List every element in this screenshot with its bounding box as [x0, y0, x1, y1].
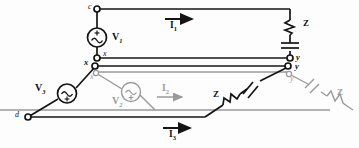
front-branch-z-seg1 [205, 105, 223, 117]
front-capacitor-plates-right [281, 43, 299, 48]
back-branch-z-seg4 [321, 92, 327, 96]
source-v3-symbol [58, 84, 77, 103]
node-label-x-mid: x [84, 58, 88, 67]
front-branch-v3-lower [28, 99, 58, 117]
node-y-mid-dot [285, 63, 291, 69]
node-x-mid-dot [92, 63, 98, 69]
node-label-x-upper: x [103, 50, 107, 58]
node-d-dot [25, 114, 31, 120]
back-branch-z-seg6 [347, 106, 353, 110]
source-v1-symbol [88, 28, 107, 47]
source-v3-label: V3 [35, 83, 45, 96]
current-i2-label: I2 [162, 84, 169, 95]
node-label-d: d [15, 111, 19, 119]
back-branch-v2-right [140, 95, 155, 110]
source-v1-label: V1 [112, 32, 122, 45]
current-i3-label: I3 [169, 130, 176, 141]
node-y-upper-dot [287, 55, 293, 61]
node-x-upper-dot [94, 55, 100, 61]
node-label-c: c [88, 3, 92, 11]
source-v2-label: V2 [112, 96, 122, 109]
impedance-z-back-label: Z [337, 88, 343, 97]
back-branch-v2-left [96, 73, 122, 89]
impedance-z-middle-label: Z [213, 90, 219, 99]
node-label-y-mid: y [295, 62, 299, 71]
source-v2-symbol [122, 83, 141, 102]
current-i1-label: I1 [170, 21, 177, 32]
front-capacitor-plates-middle [243, 82, 258, 98]
circuit-diagram-figure: c x x x y y y d V1 V2 V3 Z Z Z I1 I2 I3 [0, 0, 359, 148]
front-resistor-zigzag-right [285, 20, 294, 35]
node-x-back-dot [93, 70, 98, 75]
back-capacitor-plates [305, 79, 319, 93]
impedance-z-right-label: Z [303, 19, 309, 28]
node-label-y-back: y [290, 75, 294, 83]
node-label-x-back: x [90, 73, 94, 81]
node-c-dot [94, 6, 100, 12]
front-resistor-zigzag-middle [223, 94, 240, 105]
front-branch-z-seg5 [260, 67, 288, 81]
background-mesh-layer [0, 72, 353, 110]
